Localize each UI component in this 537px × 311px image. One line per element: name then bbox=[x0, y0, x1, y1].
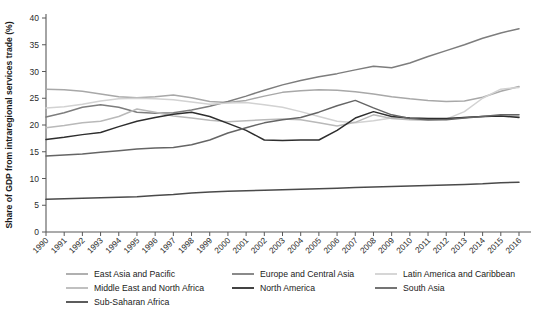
x-tick-label: 2014 bbox=[467, 235, 487, 255]
x-axis-ticks: 1990199119921993199419951996199719981999… bbox=[30, 232, 523, 255]
y-tick-label: 20 bbox=[30, 120, 40, 130]
y-tick-label: 30 bbox=[30, 67, 40, 77]
legend-label[interactable]: North America bbox=[260, 283, 315, 293]
x-tick-label: 2013 bbox=[449, 235, 469, 255]
x-tick-label: 1998 bbox=[176, 235, 196, 255]
series-line-east-asia-and-pacific bbox=[46, 86, 519, 102]
x-tick-label: 1993 bbox=[85, 235, 105, 255]
line-chart: Share of GDP from intraregional services… bbox=[0, 0, 537, 311]
x-tick-label: 2005 bbox=[303, 235, 323, 255]
x-tick-label: 2000 bbox=[212, 235, 232, 255]
y-tick-label: 0 bbox=[34, 227, 39, 237]
series-line-south-asia bbox=[46, 100, 519, 156]
y-tick-label: 15 bbox=[30, 147, 40, 157]
legend-label[interactable]: Middle East and North Africa bbox=[94, 283, 204, 293]
x-tick-label: 2016 bbox=[503, 235, 523, 255]
y-tick-label: 25 bbox=[30, 93, 40, 103]
chart-legend: East Asia and PacificEurope and Central … bbox=[66, 269, 515, 307]
x-tick-label: 2003 bbox=[267, 235, 287, 255]
y-tick-label: 40 bbox=[30, 13, 40, 23]
y-axis-title: Share of GDP from intraregional services… bbox=[4, 21, 14, 228]
y-tick-label: 10 bbox=[30, 174, 40, 184]
x-tick-label: 2004 bbox=[285, 235, 305, 255]
chart-container: Share of GDP from intraregional services… bbox=[0, 0, 537, 311]
legend-label[interactable]: Latin America and Caribbean bbox=[403, 269, 515, 279]
legend-label[interactable]: Sub-Saharan Africa bbox=[94, 297, 170, 307]
x-tick-label: 1997 bbox=[158, 235, 178, 255]
x-tick-label: 2009 bbox=[376, 235, 396, 255]
y-tick-label: 35 bbox=[30, 40, 40, 50]
legend-label[interactable]: Europe and Central Asia bbox=[260, 269, 354, 279]
y-tick-label: 5 bbox=[34, 200, 39, 210]
x-tick-label: 1991 bbox=[48, 235, 68, 255]
y-axis-title-text: Share of GDP from intraregional services… bbox=[4, 21, 14, 228]
x-tick-label: 1995 bbox=[121, 235, 141, 255]
data-series bbox=[46, 29, 519, 200]
x-tick-label: 2006 bbox=[321, 235, 341, 255]
x-tick-label: 1990 bbox=[30, 235, 50, 255]
series-line-europe-and-central-asia bbox=[46, 29, 519, 117]
legend-label[interactable]: South Asia bbox=[403, 283, 445, 293]
x-tick-label: 2007 bbox=[340, 235, 360, 255]
x-tick-label: 1992 bbox=[67, 235, 87, 255]
x-tick-label: 2010 bbox=[394, 235, 414, 255]
x-tick-label: 1999 bbox=[194, 235, 214, 255]
x-tick-label: 1994 bbox=[103, 235, 123, 255]
series-line-sub-saharan-africa bbox=[46, 182, 519, 199]
legend-label[interactable]: East Asia and Pacific bbox=[94, 269, 176, 279]
x-tick-label: 2008 bbox=[358, 235, 378, 255]
series-line-north-america bbox=[46, 112, 519, 141]
x-tick-label: 2002 bbox=[249, 235, 269, 255]
x-tick-label: 2012 bbox=[431, 235, 451, 255]
x-tick-label: 1996 bbox=[139, 235, 159, 255]
y-axis-ticks: 0510152025303540 bbox=[30, 13, 46, 237]
x-tick-label: 2011 bbox=[413, 235, 433, 255]
x-tick-label: 2001 bbox=[230, 235, 250, 255]
x-tick-label: 2015 bbox=[485, 235, 505, 255]
